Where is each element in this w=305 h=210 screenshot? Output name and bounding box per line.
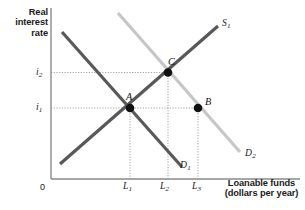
x-tick-L3-subscript: 3 [198, 185, 202, 193]
x-tick-label-L2: L2 [160, 181, 169, 192]
axis-lines [51, 8, 300, 179]
y-axis-title-line-1: Real [0, 7, 48, 17]
x-axis-title-line-1: Loanable funds [218, 178, 305, 188]
y-tick-i2-subscript: 2 [39, 71, 43, 79]
curve-label-S1-subscript: 1 [227, 22, 231, 30]
x-axis-title-line-2: (dollars per year) [218, 188, 305, 198]
x-axis-title: Loanable funds (dollars per year) [218, 178, 305, 199]
curve-label-D2-subscript: 2 [252, 152, 256, 160]
guide-lines [51, 73, 198, 180]
x-tick-L2-base: L [160, 180, 165, 191]
curve-label-S1: S1 [222, 18, 230, 29]
y-axis-title-line-3: rate [0, 28, 48, 38]
curve-label-D1: D1 [180, 160, 190, 171]
y-tick-label-i2: i2 [36, 67, 42, 78]
y-axis-title: Real interest rate [0, 7, 48, 38]
point-label-B: B [205, 96, 211, 107]
point-label-C: C [168, 56, 175, 67]
x-tick-L1-subscript: 1 [129, 185, 133, 193]
point-C-marker [164, 68, 173, 77]
x-tick-label-L1: L1 [123, 181, 132, 192]
y-tick-i1-subscript: 1 [39, 106, 43, 114]
loanable-funds-diagram: Real interest rate Loanable funds (dolla… [0, 0, 305, 210]
x-tick-L2-subscript: 2 [166, 185, 170, 193]
curve-label-D2: D2 [245, 148, 255, 159]
curve-S1 [60, 26, 218, 164]
curve-label-D1-subscript: 1 [187, 164, 191, 172]
y-axis-title-line-2: interest [0, 17, 48, 27]
x-tick-L3-base: L [192, 180, 197, 191]
point-label-A: A [126, 91, 132, 102]
y-tick-label-i1: i1 [36, 102, 42, 113]
point-B-marker [194, 104, 203, 113]
curve-label-D1-base: D [180, 159, 187, 170]
curve-label-D2-base: D [245, 147, 252, 158]
point-A-marker [126, 104, 135, 113]
origin-label: 0 [40, 182, 45, 192]
curve-D2 [118, 13, 240, 152]
x-tick-label-L3: L3 [192, 181, 201, 192]
x-tick-L1-base: L [123, 180, 128, 191]
